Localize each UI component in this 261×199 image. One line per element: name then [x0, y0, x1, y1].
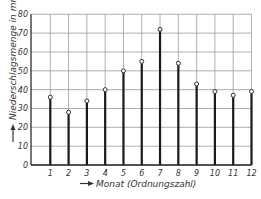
open-circle-marker-icon: [85, 99, 89, 103]
x-tick-label: 6: [139, 169, 144, 178]
x-tick-label: 3: [84, 169, 89, 178]
x-tick-label: 12: [246, 169, 256, 178]
x-tick-label: 7: [157, 169, 163, 178]
x-axis-title-group: Monat (Ordnungszahl): [80, 179, 196, 189]
x-tick-label: 9: [194, 169, 199, 178]
open-circle-marker-icon: [231, 93, 235, 97]
open-circle-marker-icon: [158, 27, 162, 31]
y-tick-label: 70: [18, 29, 28, 38]
open-circle-marker-icon: [121, 69, 125, 73]
open-circle-marker-icon: [195, 82, 199, 86]
open-circle-marker-icon: [140, 59, 144, 63]
open-circle-marker-icon: [176, 61, 180, 65]
y-tick-label: 30: [18, 104, 28, 113]
x-tick-label: 11: [228, 169, 238, 178]
y-tick-label: 60: [18, 48, 28, 57]
x-tick-label: 4: [103, 169, 108, 178]
x-axis-arrowhead-icon: [88, 181, 94, 186]
open-circle-marker-icon: [250, 90, 254, 94]
x-tick-label: 1: [48, 169, 53, 178]
open-circle-marker-icon: [67, 110, 71, 114]
y-tick-label: 10: [18, 142, 28, 151]
y-tick-label: 80: [18, 10, 28, 19]
y-tick-label: 0: [23, 161, 28, 170]
open-circle-marker-icon: [48, 95, 52, 99]
open-circle-marker-icon: [103, 88, 107, 92]
y-tick-labels: 01020304050607080: [18, 10, 28, 170]
data-stems: [48, 27, 253, 165]
x-tick-labels: 123456789101112: [48, 169, 257, 178]
y-tick-label: 20: [18, 123, 28, 132]
x-tick-label: 10: [210, 169, 220, 178]
open-circle-marker-icon: [213, 90, 217, 94]
y-axis-title: Niederschlagsmenge in mm: [8, 0, 18, 120]
x-tick-label: 8: [176, 169, 181, 178]
precipitation-chart: 01020304050607080 123456789101112 Nieder…: [0, 0, 261, 199]
x-axis-title: Monat (Ordnungszahl): [96, 179, 196, 189]
y-axis-arrowhead-icon: [11, 124, 16, 130]
y-tick-label: 50: [18, 67, 28, 76]
x-tick-label: 2: [66, 169, 71, 178]
x-tick-label: 5: [121, 169, 126, 178]
y-axis-title-group: Niederschlagsmenge in mm: [8, 0, 18, 142]
y-tick-label: 40: [18, 86, 28, 95]
